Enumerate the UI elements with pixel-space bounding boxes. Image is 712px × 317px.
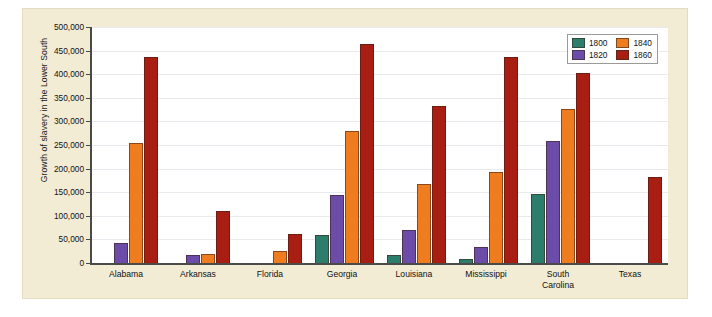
bar[interactable] [576,73,590,263]
y-tick-label: 150,000 [54,187,84,197]
bar[interactable] [201,254,215,263]
legend: 1800184018201860 [567,34,658,64]
bar[interactable] [648,177,662,263]
x-axis-label-line: Arkansas [162,269,234,280]
y-tick-label: 100,000 [54,211,84,221]
bar[interactable] [561,109,575,263]
bar[interactable] [504,57,518,263]
y-tick-label: 350,000 [54,93,84,103]
legend-label: 1860 [633,50,651,60]
bar[interactable] [144,57,158,263]
y-tick-label: 450,000 [54,46,84,56]
bar[interactable] [417,184,431,263]
bar[interactable] [489,172,503,263]
x-axis-label: Mississippi [450,269,522,290]
bar[interactable] [474,247,488,263]
bar-group [452,27,524,263]
bar[interactable] [546,141,560,263]
bar-group [308,27,380,263]
legend-swatch-1840 [616,38,629,48]
figure-root: Growth of slavery in the Lower South 050… [0,0,712,317]
legend-item[interactable]: 1840 [616,38,651,48]
bar-group [236,27,308,263]
y-tick-label: 250,000 [54,140,84,150]
y-tick-label: 400,000 [54,69,84,79]
legend-swatch-1820 [572,50,585,60]
y-tick-label: 500,000 [54,22,84,32]
x-axis-label: Florida [234,269,306,290]
bar[interactable] [387,255,401,263]
bar[interactable] [114,243,128,263]
y-tick-label: 300,000 [54,116,84,126]
y-tick-mark [86,263,92,264]
x-axis-label: Alabama [90,269,162,290]
x-axis-labels: AlabamaArkansasFloridaGeorgiaLouisianaMi… [90,269,666,290]
bar[interactable] [345,131,359,263]
legend-swatch-1800 [572,38,585,48]
bar[interactable] [129,143,143,263]
legend-label: 1800 [589,38,607,48]
bar-group [380,27,452,263]
y-tick-label: 50,000 [59,234,84,244]
x-axis-label-line: Alabama [90,269,162,280]
x-axis-label-line: Florida [234,269,306,280]
x-axis-label-line: Texas [594,269,666,280]
bar[interactable] [186,255,200,263]
bar[interactable] [402,230,416,263]
chart-panel: Growth of slavery in the Lower South 050… [22,8,688,299]
x-axis-label: Texas [594,269,666,290]
bar[interactable] [315,235,329,263]
bar[interactable] [531,194,545,263]
bar[interactable] [459,259,473,263]
x-axis-label: SouthCarolina [522,269,594,290]
bar[interactable] [330,195,344,263]
bar-group [92,27,164,263]
y-tick-label: 200,000 [54,164,84,174]
y-tick-label: 0 [79,258,84,268]
x-axis-label-line: Louisiana [378,269,450,280]
bar[interactable] [273,251,287,263]
legend-item[interactable]: 1820 [572,50,607,60]
legend-label: 1840 [633,38,651,48]
bar[interactable] [216,211,230,263]
x-axis-label: Arkansas [162,269,234,290]
x-axis-label-line: Carolina [522,280,594,291]
x-axis-label-line: Georgia [306,269,378,280]
bar-group [164,27,236,263]
x-axis-label-line: Mississippi [450,269,522,280]
bar[interactable] [432,106,446,263]
legend-swatch-1860 [616,50,629,60]
legend-item[interactable]: 1860 [616,50,651,60]
x-axis-label-line: South [522,269,594,280]
x-axis-label: Louisiana [378,269,450,290]
legend-item[interactable]: 1800 [572,38,607,48]
x-axis-label: Georgia [306,269,378,290]
legend-label: 1820 [589,50,607,60]
bar[interactable] [288,234,302,263]
y-axis-title: Growth of slavery in the Lower South [39,10,49,210]
bar[interactable] [360,44,374,263]
